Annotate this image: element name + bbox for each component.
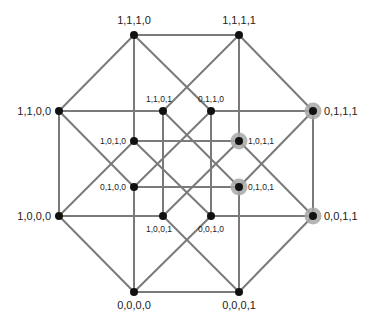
vertex-1001 [159, 212, 167, 220]
edge-1000-0000 [59, 216, 134, 292]
vertex-label-0000: 0,0,0,0 [117, 299, 151, 311]
vertex-label-1001: 1,0,0,1 [146, 224, 172, 234]
edge-0011-1011 [239, 141, 313, 216]
edge-0110-0100 [134, 111, 211, 187]
vertex-label-0110: 0,1,1,0 [198, 94, 224, 104]
vertex-0001 [235, 288, 243, 296]
edge-0011-0001 [239, 216, 313, 292]
edge-1100-0100 [59, 111, 134, 187]
vertex-label-1010: 1,0,1,0 [100, 136, 126, 146]
vertex-1110 [130, 31, 138, 39]
edge-1010-0010 [134, 141, 211, 216]
nodes-layer [55, 31, 317, 296]
vertex-label-0101: 0,1,0,1 [248, 182, 274, 192]
vertex-0100 [130, 183, 138, 191]
vertex-0101 [235, 183, 243, 191]
vertex-label-0001: 0,0,0,1 [222, 299, 256, 311]
vertex-1011 [235, 137, 243, 145]
vertex-label-1111: 1,1,1,1 [222, 14, 256, 26]
vertex-0000 [130, 288, 138, 296]
vertex-1000 [55, 212, 63, 220]
vertex-label-1100: 1,1,0,0 [17, 105, 51, 117]
vertex-label-1101: 1,1,0,1 [146, 94, 172, 104]
vertex-label-0010: 0,0,1,0 [198, 224, 224, 234]
labels-layer: 1,1,1,01,1,1,11,1,0,00,1,1,11,0,0,00,0,1… [17, 14, 357, 311]
vertex-label-1011: 1,0,1,1 [248, 136, 274, 146]
vertex-0110 [207, 107, 215, 115]
edge-1000-1010 [59, 141, 134, 216]
edge-0111-0101 [239, 111, 313, 187]
vertex-0011 [309, 212, 317, 220]
edge-1110-1100 [59, 35, 134, 111]
vertex-label-1110: 1,1,1,0 [117, 14, 151, 26]
vertex-label-0100: 0,1,0,0 [100, 182, 126, 192]
vertex-1111 [235, 31, 243, 39]
vertex-1101 [159, 107, 167, 115]
vertex-0010 [207, 212, 215, 220]
edge-1101-0101 [163, 111, 239, 187]
vertex-0111 [309, 107, 317, 115]
vertex-1100 [55, 107, 63, 115]
edge-1111-0111 [239, 35, 313, 111]
highlight-layer [231, 103, 322, 225]
vertex-1010 [130, 137, 138, 145]
vertex-label-0111: 0,1,1,1 [324, 105, 358, 117]
vertex-label-0011: 0,0,1,1 [324, 210, 358, 222]
edges-layer [59, 35, 313, 292]
vertex-label-1000: 1,0,0,0 [17, 210, 51, 222]
edge-1011-1001 [163, 141, 239, 216]
tesseract-diagram: 1,1,1,01,1,1,11,1,0,00,1,1,11,0,0,00,0,1… [0, 0, 369, 329]
